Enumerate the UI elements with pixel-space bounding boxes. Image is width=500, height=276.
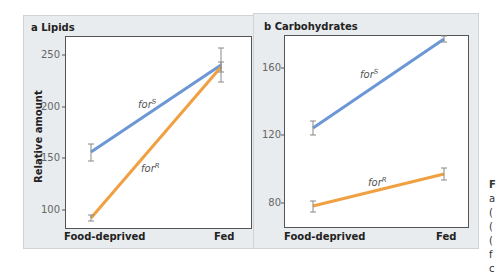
caption-clipped: F a ( ( ( f c bbox=[489, 178, 500, 276]
panel-b-forS-line bbox=[313, 39, 444, 128]
panel-b-forR-label: forR bbox=[368, 176, 387, 188]
panel-b-forS-label: forS bbox=[360, 68, 378, 80]
panel-a-forR-label: forR bbox=[141, 162, 160, 174]
panel-a-forS-label: forS bbox=[138, 98, 156, 110]
panel-a-forR-line bbox=[91, 67, 221, 218]
